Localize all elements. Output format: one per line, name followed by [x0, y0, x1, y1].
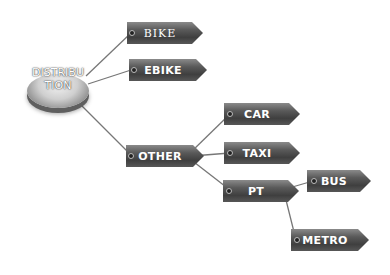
tag-hole-icon	[129, 30, 135, 36]
tag-hole-icon	[226, 188, 232, 194]
node-bike: BIKE	[127, 22, 203, 44]
node-other-label: OTHER	[138, 150, 182, 163]
node-bike-label: BIKE	[144, 27, 177, 40]
node-pt: PT	[223, 180, 299, 202]
tag-hole-icon	[128, 153, 134, 159]
node-pt-label: PT	[248, 185, 264, 198]
tag-hole-icon	[131, 67, 137, 73]
diagram-canvas: DISTRIBU TION BIKE EBIKE OTHER CAR TAXI …	[0, 0, 390, 275]
node-taxi-label: TAXI	[243, 147, 272, 160]
node-other: OTHER	[126, 145, 204, 167]
node-metro: METRO	[291, 229, 369, 251]
node-car: CAR	[224, 103, 300, 125]
root-label-line1: DISTRIBU	[0, 66, 116, 79]
tag-hole-icon	[311, 178, 317, 184]
node-ebike: EBIKE	[129, 59, 207, 81]
tag-hole-icon	[227, 150, 233, 156]
root-label-line2: TION	[0, 79, 116, 92]
root-node-label: DISTRIBU TION	[0, 66, 116, 92]
tag-hole-icon	[294, 237, 300, 243]
node-metro-label: METRO	[302, 234, 347, 247]
node-car-label: CAR	[244, 108, 270, 121]
node-ebike-label: EBIKE	[144, 64, 182, 77]
node-bus-label: BUS	[321, 175, 347, 188]
tag-hole-icon	[227, 111, 233, 117]
node-taxi: TAXI	[224, 142, 300, 164]
